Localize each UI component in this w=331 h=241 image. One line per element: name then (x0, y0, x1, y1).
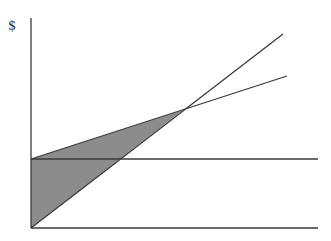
break-even-chart (0, 0, 331, 241)
revenue-line (31, 34, 283, 228)
total-cost-line (31, 76, 287, 159)
